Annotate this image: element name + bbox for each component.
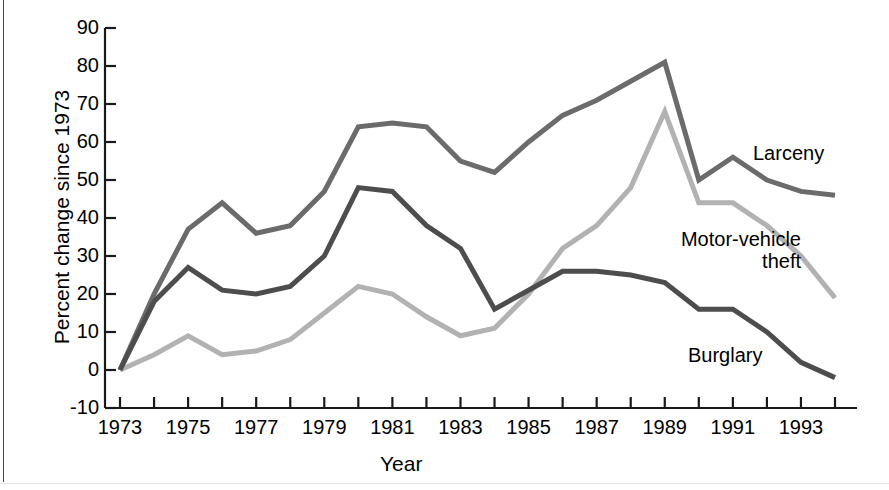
- x-axis-title: Year: [380, 452, 422, 476]
- series-label-motor-vehicle-theft-line2: theft: [762, 250, 801, 272]
- y-tick-label: 40: [53, 206, 99, 229]
- series-label-larceny: Larceny: [753, 142, 824, 164]
- y-tick-label: 90: [53, 16, 99, 39]
- y-tick-label: 80: [53, 54, 99, 77]
- y-tick-label: 10: [53, 320, 99, 343]
- y-tick-label: 20: [53, 282, 99, 305]
- y-tick-label: 50: [53, 168, 99, 191]
- y-tick-label: 0: [53, 358, 99, 381]
- series-label-motor-vehicle-theft: Motor-vehicletheft: [641, 228, 801, 273]
- x-tick-label: 1993: [761, 416, 841, 439]
- series-group: [120, 62, 835, 377]
- chart-figure: Percent change since 1973 Year 908070605…: [0, 0, 889, 490]
- series-label-burglary: Burglary: [688, 344, 762, 366]
- y-tick-label: 30: [53, 244, 99, 267]
- series-line-larceny: [120, 62, 835, 370]
- series-label-motor-vehicle-theft-line1: Motor-vehicle: [681, 228, 801, 250]
- y-tick-label: 70: [53, 92, 99, 115]
- y-tick-label: 60: [53, 130, 99, 153]
